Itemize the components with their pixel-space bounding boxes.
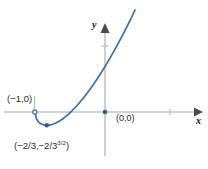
y-axis-arrowhead [101,23,110,33]
point-x-intercept [33,110,37,114]
label-minimum-prefix: (−2/3,−2/3 [14,140,57,151]
function-curve [35,10,135,125]
axis-label-x: x [196,116,201,126]
point-minimum [45,123,49,127]
label-minimum-exponent: 3/2 [57,139,66,146]
label-minimum: (−2/3,−2/33/2) [14,140,69,151]
point-origin [103,110,108,115]
label-minimum-suffix: ) [66,140,69,151]
figure-canvas: (−1,0) (0,0) (−2/3,−2/33/2) y x [0,0,208,169]
label-x-intercept: (−1,0) [7,94,32,104]
label-origin: (0,0) [116,114,135,123]
axis-label-y: y [92,20,96,30]
